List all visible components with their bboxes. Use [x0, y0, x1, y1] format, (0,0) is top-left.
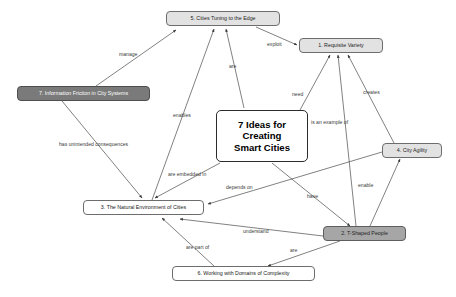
edge-label-exploit: exploit — [267, 41, 282, 47]
edge-label-has-unintended-consequences: has unintended consequences — [59, 141, 129, 147]
node-natural-environment-of-cities[interactable]: 3. The Natural Environment of Cities — [83, 200, 204, 215]
edge-label-are-top: are — [229, 63, 237, 69]
edge-are-embedded-in — [155, 163, 220, 198]
edge-label-enable: enable — [358, 182, 373, 188]
edge-label-depends-on: depends on — [226, 184, 253, 190]
node-requisite-variety[interactable]: 1. Requisite Variety — [299, 38, 383, 53]
edge-label-are-embedded-in: are embedded in — [168, 171, 206, 177]
edge-label-is-an-example-of: is an example of — [311, 119, 349, 125]
edge-manage — [96, 30, 176, 86]
node-city-agility[interactable]: 4. City Agility — [382, 143, 442, 158]
edge-are-part-of — [162, 218, 214, 266]
edge-label-are-bottom: are — [290, 247, 298, 253]
node-t-shaped-people[interactable]: 2. T-Shaped People — [323, 226, 406, 241]
center-line-1: 7 Ideas for — [238, 119, 286, 130]
edge-creates — [348, 55, 394, 143]
edge-label-have: have — [307, 193, 318, 199]
edge-label-need: need — [292, 91, 303, 97]
center-line-2: Creating — [243, 130, 282, 141]
node-cities-tuning-to-the-edge[interactable]: 5. Cities Tuning to the Edge — [166, 11, 280, 26]
edge-label-creates: creates — [363, 89, 380, 95]
edge-are-bottom — [268, 241, 340, 266]
center-line-3: Smart Cities — [234, 142, 290, 153]
edge-label-understand: understand — [243, 228, 269, 234]
edge-has-unintended-consequences — [62, 101, 142, 198]
edge-need — [300, 55, 330, 110]
edge-label-enables: enables — [173, 112, 191, 118]
node-information-friction-in-city-systems[interactable]: 7. Information Friction in City Systems — [17, 86, 150, 101]
concept-map-canvas: manage exploit are need creates enables … — [0, 0, 456, 297]
edge-enable — [370, 159, 400, 226]
edge-label-are-part-of: are part of — [186, 244, 210, 250]
node-working-with-domains-of-complexity[interactable]: 6. Working with Domains of Complexity — [172, 266, 315, 281]
edge-is-an-example-of — [338, 55, 356, 226]
node-center-7-ideas-for-creating-smart-cities[interactable]: 7 Ideas for Creating Smart Cities — [216, 110, 308, 162]
edge-label-manage: manage — [119, 51, 138, 57]
